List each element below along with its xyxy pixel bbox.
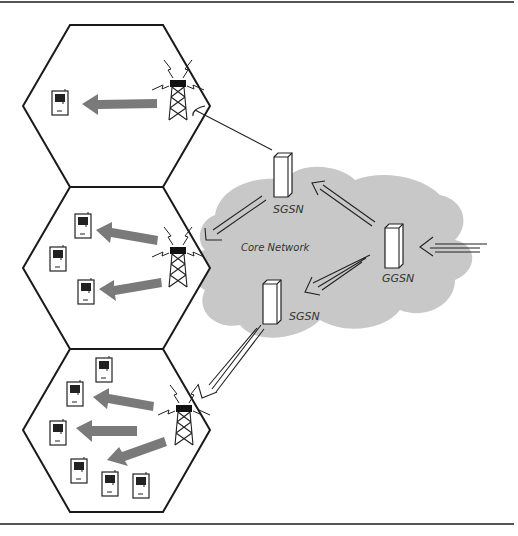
mobile-phone-icon [96,356,112,382]
sgsn-top-server-icon [274,153,292,197]
mobile-phone-icon [71,457,87,483]
sgsn-bottom-server-icon [263,280,281,324]
mobile-phone-icon [50,245,66,271]
core-network-label: Core Network [241,242,311,253]
ggsn-label: GGSN [382,272,414,285]
mobile-phone-icon [133,472,149,498]
mobile-phone-icon [67,380,83,406]
mobile-phone-icon [52,89,68,115]
mobile-phone-icon [50,419,66,445]
mobile-phone-icon [102,470,118,496]
ggsn-server-icon [385,224,403,268]
link-sgsn-top-cell-top [195,110,272,150]
sgsn-bottom-label: SGSN [289,310,320,323]
sgsn-top-label: SGSN [273,203,304,216]
mobile-phone-icon [75,212,91,238]
mobile-phone-icon [78,278,94,304]
network-diagram: SGSN Core Network GGSN SGSN [0,0,518,536]
core-network-cloud [190,167,472,338]
